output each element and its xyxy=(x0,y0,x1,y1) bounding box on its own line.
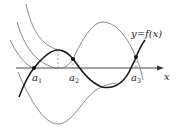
thin-curve-2 xyxy=(17,22,73,68)
point-a2-dot xyxy=(71,57,75,61)
label-a1: a1 xyxy=(32,72,42,85)
point-a3-dot xyxy=(134,55,138,59)
thin-curve-3 xyxy=(10,40,34,68)
label-x-axis: x xyxy=(164,71,170,82)
function-diagram: a1 a2 a3 x y=f(x) xyxy=(0,0,180,133)
label-function: y=f(x) xyxy=(130,28,162,39)
point-a1-dot xyxy=(32,66,36,70)
x-axis-arrow-icon xyxy=(157,66,164,71)
thin-curve-1 xyxy=(26,4,73,59)
label-a3: a3 xyxy=(131,72,141,85)
function-curve xyxy=(19,40,145,97)
label-a2: a2 xyxy=(69,72,79,85)
